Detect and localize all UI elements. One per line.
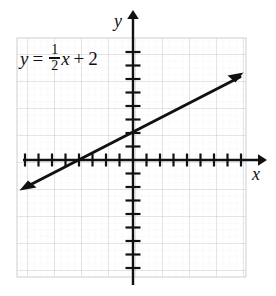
equation-variable: x	[61, 49, 69, 68]
equation-lhs: y	[20, 49, 28, 68]
fraction-one-half: 1 2	[49, 43, 60, 73]
graph-figure: y = 1 2 x + 2 y x	[0, 0, 276, 296]
fraction-denominator: 2	[49, 59, 60, 73]
equation-constant: 2	[88, 49, 98, 68]
equals-sign: =	[32, 49, 43, 68]
fraction-numerator: 1	[49, 43, 60, 57]
y-axis-label: y	[114, 12, 122, 30]
plus-sign: +	[74, 49, 85, 68]
x-axis-label: x	[252, 165, 260, 183]
equation-annotation: y = 1 2 x + 2	[20, 43, 98, 73]
